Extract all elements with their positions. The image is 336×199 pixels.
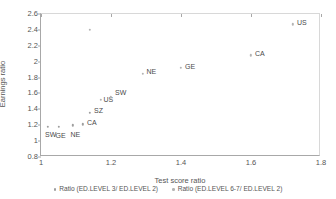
x-tick-label: 1.4 — [176, 159, 186, 167]
y-tick-mark — [38, 141, 41, 142]
data-point — [89, 111, 91, 113]
x-tick-label: 1.8 — [316, 159, 326, 167]
y-tick-label: 1.2 — [28, 121, 38, 129]
legend-item-label: Ratio (ED.LEVEL 6-7/ ED.LEVEL 2) — [178, 186, 283, 193]
data-point-label: GE — [56, 132, 66, 139]
data-point — [99, 99, 101, 101]
data-point-label: SW — [115, 89, 126, 96]
y-tick-mark — [38, 125, 41, 126]
y-axis-title: Earnings ratio — [0, 61, 7, 107]
y-tick-label: 2.2 — [28, 42, 38, 50]
data-point-label: NE — [147, 68, 157, 75]
y-tick-mark — [38, 45, 41, 46]
y-tick-mark — [38, 29, 41, 30]
x-axis-title: Test score ratio — [155, 176, 206, 185]
legend-item[interactable]: Ratio (ED.LEVEL 6-7/ ED.LEVEL 2) — [172, 186, 282, 193]
legend-marker-icon — [172, 188, 175, 191]
x-tick-label: 1 — [39, 159, 43, 167]
y-tick-label: 0.8 — [28, 153, 38, 161]
y-tick-label: 1.4 — [28, 106, 38, 114]
chart-legend: Ratio (ED.LEVEL 3/ ED.LEVEL 2)Ratio (ED.… — [0, 186, 336, 193]
x-tick-mark — [41, 14, 42, 17]
x-tick-label: 1.2 — [106, 159, 116, 167]
data-point-label: CA — [87, 119, 97, 126]
data-point — [180, 67, 182, 69]
data-point — [292, 23, 294, 25]
data-point — [57, 126, 59, 128]
data-point-label: NE — [71, 131, 81, 138]
legend-item-label: Ratio (ED.LEVEL 3/ ED.LEVEL 2) — [59, 186, 158, 193]
y-tick-mark — [38, 77, 41, 78]
y-tick-mark — [38, 61, 41, 62]
plot-area: 0.811.21.41.61.822.22.42.6 11.21.41.61.8… — [40, 13, 320, 156]
y-tick-label: 2.4 — [28, 26, 38, 34]
x-tick-label: 1.6 — [246, 159, 256, 167]
scatter-chart: 0.811.21.41.61.822.22.42.6 11.21.41.61.8… — [0, 0, 336, 199]
data-point-label: CA — [255, 50, 265, 57]
data-point — [47, 126, 49, 128]
y-tick-mark — [38, 109, 41, 110]
data-point — [82, 123, 84, 125]
data-point — [141, 72, 143, 74]
x-tick-mark — [321, 14, 322, 17]
data-point — [250, 54, 252, 56]
legend-item[interactable]: Ratio (ED.LEVEL 3/ ED.LEVEL 2) — [54, 186, 158, 193]
legend-marker-icon — [54, 188, 57, 191]
data-point — [71, 124, 73, 126]
y-tick-label: 1.8 — [28, 74, 38, 82]
data-point-label: GE — [185, 63, 195, 70]
data-point-label: US — [297, 19, 307, 26]
x-tick-mark — [111, 14, 112, 17]
data-point-label: SZ — [94, 107, 103, 114]
y-tick-label: 2.6 — [28, 10, 38, 18]
x-tick-mark — [181, 14, 182, 17]
y-tick-label: 1.6 — [28, 90, 38, 98]
y-tick-mark — [38, 93, 41, 94]
data-point — [89, 29, 91, 31]
x-tick-mark — [251, 14, 252, 17]
